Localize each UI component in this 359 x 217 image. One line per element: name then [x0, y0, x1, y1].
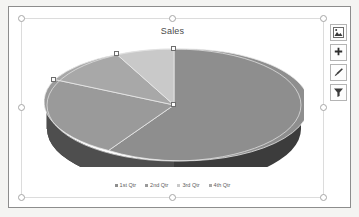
chart-styles-button[interactable] — [330, 64, 347, 81]
chart-filters-button[interactable] — [330, 84, 347, 101]
legend-item-3rd-qtr[interactable]: 3rd Qtr — [177, 182, 199, 188]
plus-icon — [333, 47, 344, 58]
paintbrush-icon — [333, 67, 344, 78]
legend-item-1st-qtr[interactable]: 1st Qtr — [115, 182, 137, 188]
layout-options-button[interactable] — [330, 24, 347, 41]
resize-handle-top-left[interactable] — [18, 15, 25, 22]
legend-swatch-icon — [209, 184, 212, 187]
legend-swatch-icon — [145, 184, 148, 187]
resize-handle-middle-right[interactable] — [320, 104, 327, 111]
legend-label: 4th Qtr — [214, 182, 231, 188]
legend-label: 3rd Qtr — [182, 182, 199, 188]
chart-title[interactable]: Sales — [22, 26, 323, 36]
layout-options-icon — [333, 27, 344, 38]
funnel-icon — [333, 87, 344, 98]
data-point-handle[interactable] — [171, 46, 176, 51]
chart-side-buttons[interactable] — [330, 24, 347, 101]
data-point-handle[interactable] — [114, 51, 119, 56]
legend-label: 1st Qtr — [120, 182, 137, 188]
plot-area[interactable] — [44, 43, 304, 167]
chart-elements-button[interactable] — [330, 44, 347, 61]
legend-label: 2nd Qtr — [150, 182, 168, 188]
legend-swatch-icon — [115, 184, 118, 187]
resize-handle-middle-left[interactable] — [18, 104, 25, 111]
legend-swatch-icon — [177, 184, 180, 187]
resize-handle-top-right[interactable] — [320, 15, 327, 22]
resize-handle-bottom-center[interactable] — [169, 194, 176, 201]
chart-object[interactable]: Sales — [21, 18, 324, 198]
chart-legend[interactable]: 1st Qtr 2nd Qtr 3rd Qtr 4th Qtr — [22, 182, 323, 188]
data-point-handle[interactable] — [171, 102, 176, 107]
legend-item-4th-qtr[interactable]: 4th Qtr — [209, 182, 231, 188]
resize-handle-bottom-right[interactable] — [320, 194, 327, 201]
slide-frame: Sales — [8, 6, 351, 208]
resize-handle-top-center[interactable] — [169, 15, 176, 22]
legend-item-2nd-qtr[interactable]: 2nd Qtr — [145, 182, 168, 188]
resize-handle-bottom-left[interactable] — [18, 194, 25, 201]
data-point-handle[interactable] — [51, 77, 56, 82]
